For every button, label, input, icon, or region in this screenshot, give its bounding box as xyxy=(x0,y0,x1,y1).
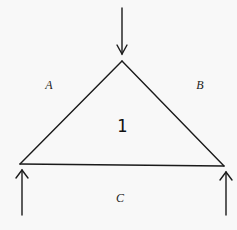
left-edge xyxy=(20,61,122,164)
arrow-up-icon xyxy=(16,170,28,215)
triangle-label: 1 xyxy=(117,116,127,136)
region-label-b: B xyxy=(196,78,203,93)
diagram-canvas: A B 1 C xyxy=(0,0,237,230)
arrow-up-icon xyxy=(220,172,232,215)
bottom-edge xyxy=(20,164,224,166)
region-label-c: C xyxy=(116,191,124,206)
right-edge xyxy=(122,61,224,166)
region-label-a: A xyxy=(45,78,52,93)
arrow-down-icon xyxy=(117,8,127,54)
